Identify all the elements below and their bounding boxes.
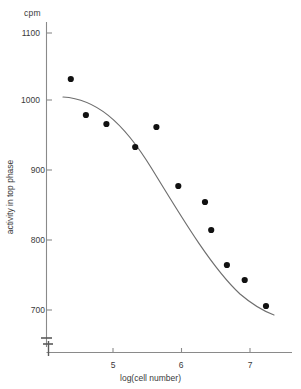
data-point bbox=[83, 112, 89, 118]
y-tick-label-900: 900 bbox=[19, 165, 45, 175]
y-tick-label-700: 700 bbox=[19, 305, 45, 315]
x-tick-label-7: 7 bbox=[243, 360, 257, 370]
fitted-curve bbox=[63, 97, 274, 315]
data-point-group bbox=[68, 76, 269, 309]
chart-figure: cpm 1100 1000 900 800 700 5 6 7 activity… bbox=[0, 0, 301, 389]
data-point bbox=[132, 144, 138, 150]
data-point bbox=[242, 277, 248, 283]
y-tick-marks bbox=[47, 33, 53, 310]
x-axis-title: log(cell number) bbox=[0, 373, 301, 383]
plot-area bbox=[0, 0, 301, 389]
y-axis-unit-label: cpm bbox=[24, 8, 41, 18]
data-point bbox=[263, 303, 269, 309]
data-point bbox=[208, 227, 214, 233]
y-tick-label-800: 800 bbox=[19, 235, 45, 245]
y-axis-title: activity in top phase bbox=[5, 136, 15, 258]
data-point bbox=[68, 76, 74, 82]
data-point bbox=[224, 262, 230, 268]
data-point bbox=[175, 183, 181, 189]
x-tick-label-6: 6 bbox=[174, 360, 188, 370]
x-tick-label-5: 5 bbox=[106, 360, 120, 370]
data-point bbox=[153, 124, 159, 130]
data-point bbox=[202, 199, 208, 205]
data-point bbox=[103, 121, 109, 127]
y-tick-label-1000: 1000 bbox=[14, 95, 40, 105]
y-tick-label-1100: 1100 bbox=[14, 28, 40, 38]
